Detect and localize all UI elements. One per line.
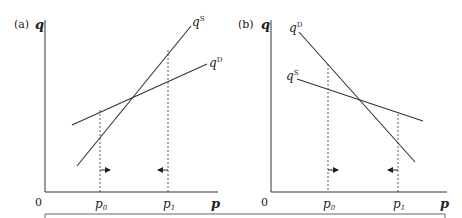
panel-a-supply-label: qS [192, 15, 205, 29]
panel-b-label: (b) [238, 18, 254, 31]
panel-a-y-axis-label: q [35, 17, 44, 32]
panel-b: (b) q 0 p qD qS p0 p1 [238, 17, 449, 212]
panel-b-origin-label: 0 [261, 196, 268, 209]
panel-a-p1-label: p1 [163, 197, 175, 212]
panel-b-supply-label: qS [286, 69, 299, 83]
panel-a-origin-label: 0 [35, 196, 42, 209]
panel-a-demand-label: qD [209, 56, 223, 70]
panel-a-demand-curve [72, 64, 207, 125]
panel-b-y-axis-label: q [261, 17, 270, 32]
panel-a: (a) q 0 p qS qD p0 p1 [14, 15, 223, 212]
panel-b-p1-label: p1 [393, 197, 405, 212]
panel-a-supply-curve [77, 26, 191, 166]
panel-b-p0-label: p0 [323, 197, 336, 212]
panel-b-x-axis-label: p [440, 196, 449, 211]
panel-a-x-axis-label: p [211, 196, 220, 211]
supply-demand-diagram: (a) q 0 p qS qD p0 p1 (b) q 0 p qD q [0, 0, 462, 218]
caption-box-border [45, 214, 445, 218]
panel-a-label: (a) [14, 18, 29, 31]
panel-b-supply-curve [297, 79, 423, 121]
panel-b-demand-label: qD [289, 21, 303, 35]
panel-a-p0-label: p0 [95, 197, 108, 212]
